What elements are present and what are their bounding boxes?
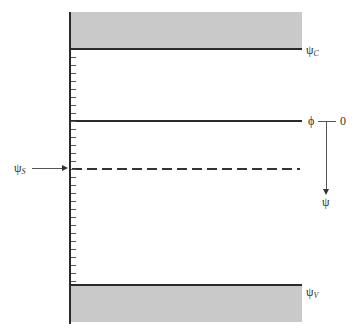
axis-tick	[71, 241, 76, 242]
vertical-axis	[69, 12, 71, 324]
axis-tick	[71, 193, 76, 194]
axis-tick	[71, 57, 76, 58]
surface-potential-label: ψS	[14, 162, 26, 178]
axis-tick	[71, 257, 76, 258]
axis-tick	[71, 89, 76, 90]
axis-tick	[71, 169, 76, 170]
subscript-c: C	[314, 49, 319, 58]
psi-symbol: ψ	[306, 285, 314, 299]
fermi-level-line	[70, 120, 302, 122]
surface-potential-dashed-line	[72, 168, 300, 170]
axis-tick	[71, 161, 76, 162]
axis-tick	[71, 121, 76, 122]
reference-line	[318, 121, 336, 122]
axis-tick	[71, 105, 76, 106]
axis-tick	[71, 217, 76, 218]
psi-axis-label: ψ	[322, 196, 330, 208]
conduction-band-region	[70, 12, 302, 49]
axis-tick	[71, 185, 76, 186]
axis-tick	[71, 65, 76, 66]
psi-axis-arrow-line	[326, 121, 327, 191]
psi-symbol: ψ	[306, 43, 314, 57]
axis-tick	[71, 73, 76, 74]
axis-tick	[71, 97, 76, 98]
axis-tick	[71, 201, 76, 202]
axis-tick	[71, 81, 76, 82]
subscript-v: V	[314, 291, 319, 300]
axis-tick	[71, 273, 76, 274]
fermi-level-label: ϕ	[308, 115, 314, 127]
axis-tick	[71, 145, 76, 146]
conduction-level-line	[70, 48, 302, 50]
conduction-level-label: ψC	[306, 44, 319, 60]
axis-tick	[71, 177, 76, 178]
valence-level-label: ψV	[306, 286, 318, 302]
arrow-right-icon	[62, 165, 68, 171]
valence-band-region	[70, 286, 302, 322]
axis-tick	[71, 137, 76, 138]
axis-tick	[71, 225, 76, 226]
axis-tick	[71, 209, 76, 210]
axis-tick	[71, 233, 76, 234]
axis-tick	[71, 153, 76, 154]
axis-tick	[71, 129, 76, 130]
axis-tick	[71, 281, 76, 282]
axis-tick	[71, 265, 76, 266]
psi-symbol: ψ	[14, 161, 22, 175]
zero-reference-label: 0	[340, 115, 346, 127]
subscript-s: S	[22, 167, 26, 176]
axis-tick	[71, 113, 76, 114]
axis-tick	[71, 249, 76, 250]
surface-arrow-line	[32, 168, 62, 169]
